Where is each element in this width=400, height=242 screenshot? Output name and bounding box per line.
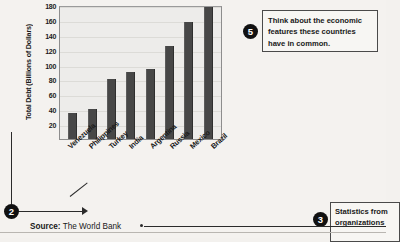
y-tick-label: 120 — [45, 47, 56, 54]
y-axis-ticks: 18016014012010080604020 — [36, 2, 58, 142]
bar-argentina — [146, 69, 155, 139]
source-line: Source: The World Bank — [30, 222, 121, 231]
callout-badge-5: 5 — [243, 24, 258, 39]
callout-box-3: Statistics from organizations — [330, 202, 400, 242]
bar-brazil — [204, 7, 213, 140]
source-label: Source: — [30, 222, 60, 231]
y-tick-label: 160 — [45, 17, 56, 24]
bar-chart: Total Debt (Billions of Dollars) 1801601… — [22, 2, 222, 142]
bar-series — [60, 7, 221, 139]
y-axis-title: Total Debt (Billions of Dollars) — [21, 2, 35, 142]
callout-2-arrowhead — [82, 207, 88, 215]
callout-badge-3: 3 — [313, 212, 328, 227]
callout-2-leader-horizontal — [19, 211, 84, 212]
y-axis-title-label: Total Debt (Billions of Dollars) — [24, 24, 33, 120]
y-tick-label: 80 — [49, 77, 56, 84]
callout-badge-2: 2 — [4, 204, 19, 219]
bar-mexico — [184, 22, 193, 139]
callout-box-5: Think about the economic features these … — [262, 10, 378, 52]
source-leader-line — [144, 226, 386, 227]
y-tick-label: 140 — [45, 32, 56, 39]
source-value: The World Bank — [63, 222, 122, 231]
y-tick-label: 180 — [45, 3, 56, 10]
y-tick-label: 100 — [45, 62, 56, 69]
y-tick-label: 20 — [49, 122, 56, 129]
plot-area — [59, 6, 222, 140]
bar-india — [126, 72, 135, 139]
page-divider — [0, 232, 386, 233]
callout-2-leader-vertical — [11, 132, 12, 204]
y-tick-label: 40 — [49, 107, 56, 114]
source-leader-dot — [140, 224, 143, 227]
y-tick-label: 60 — [49, 92, 56, 99]
